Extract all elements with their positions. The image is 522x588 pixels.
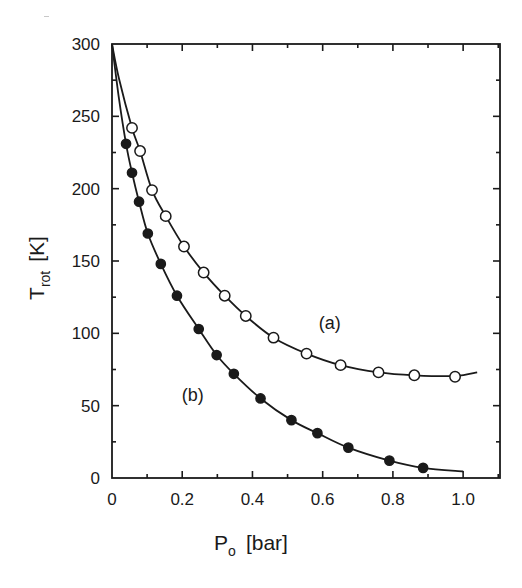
series-a-label: (a) <box>319 313 341 333</box>
series-a-open-circle-marker <box>335 360 345 370</box>
y-axis-subscript: rot <box>37 271 53 287</box>
series-annotations: (a)(b) <box>182 313 341 405</box>
x-tick-label: 0.8 <box>381 490 405 509</box>
series-b-filled-circle-marker <box>121 139 130 148</box>
y-tick-label: 300 <box>72 35 100 54</box>
x-tick-label: 1.0 <box>451 490 475 509</box>
series-b-label: (b) <box>182 385 204 405</box>
plot-border <box>112 44 500 478</box>
series-a-open-circle-marker <box>220 291 230 301</box>
y-axis-symbol: T <box>25 287 48 300</box>
series-b-filled-circle-marker <box>419 463 428 472</box>
x-axis-unit: [bar] <box>246 531 288 554</box>
x-tick-labels: 00.20.40.60.81.0 <box>107 490 475 509</box>
series-b-curve <box>112 44 463 471</box>
series-a-open-circle-marker <box>409 370 419 380</box>
series-b-filled-circle-marker <box>229 369 238 378</box>
chart-canvas: 00.20.40.60.81.0 050100150200250300 (a)(… <box>0 0 522 588</box>
series-a-open-circle-marker <box>135 146 145 156</box>
plot-frame <box>112 44 500 478</box>
series-a-open-circle-marker <box>373 367 383 377</box>
series-b-filled-circle-marker <box>134 197 143 206</box>
y-tick-label: 150 <box>72 252 100 271</box>
series-a-open-circle-marker <box>179 241 189 251</box>
y-tick-label: 200 <box>72 180 100 199</box>
y-tick-label: 0 <box>91 469 100 488</box>
series-markers <box>121 123 460 473</box>
series-b-filled-circle-marker <box>385 456 394 465</box>
series-a-open-circle-marker <box>241 311 251 321</box>
x-axis-subscript: o <box>228 543 236 559</box>
y-axis-title: Trot[K] <box>25 236 53 300</box>
x-tick-label: 0.6 <box>311 490 335 509</box>
series-a-open-circle-marker <box>268 332 278 342</box>
series-b-filled-circle-marker <box>172 291 181 300</box>
y-tick-label: 100 <box>72 324 100 343</box>
axis-ticks <box>112 44 500 478</box>
series-b-filled-circle-marker <box>313 429 322 438</box>
y-axis-unit: [K] <box>25 236 48 262</box>
series-a-open-circle-marker <box>147 185 157 195</box>
series-b-filled-circle-marker <box>156 259 165 268</box>
series-b-filled-circle-marker <box>143 229 152 238</box>
series-b-filled-circle-marker <box>256 394 265 403</box>
series-b-filled-circle-marker <box>287 416 296 425</box>
y-tick-label: 250 <box>72 107 100 126</box>
x-tick-label: 0.4 <box>241 490 265 509</box>
series-b-filled-circle-marker <box>212 350 221 359</box>
series-a-open-circle-marker <box>301 348 311 358</box>
series-a-open-circle-marker <box>450 372 460 382</box>
series-b-filled-circle-marker <box>194 324 203 333</box>
series-b-filled-circle-marker <box>127 168 136 177</box>
y-tick-labels: 050100150200250300 <box>72 35 100 488</box>
series-a-open-circle-marker <box>161 211 171 221</box>
series-b-filled-circle-marker <box>344 443 353 452</box>
x-axis-title: Po[bar] <box>214 531 288 559</box>
series-curves <box>112 44 477 471</box>
series-a-open-circle-marker <box>127 123 137 133</box>
x-axis-symbol: P <box>214 531 228 554</box>
series-a-curve <box>112 44 477 376</box>
x-tick-label: 0 <box>107 490 116 509</box>
y-tick-label: 50 <box>81 397 100 416</box>
series-a-open-circle-marker <box>198 267 208 277</box>
x-tick-label: 0.2 <box>170 490 194 509</box>
